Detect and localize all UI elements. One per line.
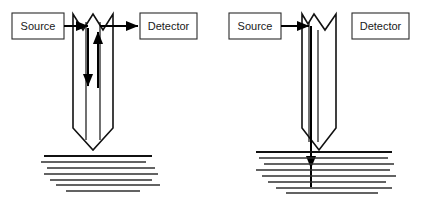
right-source-label: Source [238,20,273,32]
left-detector-box: Detector [140,13,197,39]
left-source-label: Source [21,20,56,32]
panel-non-contact-reflective: Source Detector [12,13,197,191]
right-detector-box: Detector [352,13,409,39]
probe-diagram-figure: Source Detector [0,0,422,202]
left-source-box: Source [12,13,64,39]
left-material-surface [41,156,160,191]
right-source-box: Source [229,13,281,39]
panel-penetrating-contact: Source Detector [229,13,409,193]
right-material-surface [256,152,396,193]
right-probe-outline [302,14,336,150]
left-detector-label: Detector [148,20,190,32]
left-probe-outline [73,14,113,150]
right-detector-label: Detector [360,20,402,32]
diagram-canvas: Source Detector [0,0,422,202]
